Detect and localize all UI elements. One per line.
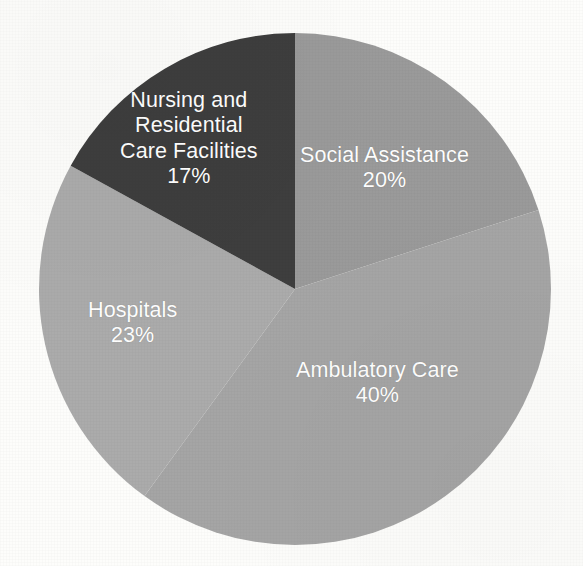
pie-slice-group [39,33,551,545]
pie-chart-svg [0,0,583,566]
pie-label-ambulatory-care-percent: 40% [296,383,459,408]
pie-label-hospitals: Hospitals 23% [88,298,177,349]
pie-label-hospitals-percent: 23% [88,323,177,348]
pie-label-nursing-percent: 17% [120,164,258,189]
pie-label-social-assistance: Social Assistance 20% [300,143,469,194]
pie-label-nursing-residential-care-facilities: Nursing and Residential Care Facilities … [120,88,258,189]
pie-chart: Social Assistance 20% Ambulatory Care 40… [0,0,583,566]
pie-label-social-assistance-name: Social Assistance [300,143,469,168]
pie-label-hospitals-name: Hospitals [88,298,177,323]
pie-label-nursing-line-3: Care Facilities [120,139,258,164]
pie-label-nursing-line-1: Nursing and [120,88,258,113]
pie-label-ambulatory-care-name: Ambulatory Care [296,358,459,383]
pie-label-social-assistance-percent: 20% [300,168,469,193]
pie-label-ambulatory-care: Ambulatory Care 40% [296,358,459,409]
pie-label-nursing-line-2: Residential [120,113,258,138]
